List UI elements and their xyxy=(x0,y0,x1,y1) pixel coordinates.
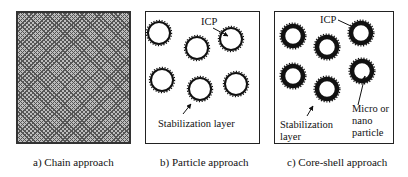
stabilization-layer-ring xyxy=(218,26,243,51)
stabilization-layer-ring xyxy=(146,20,171,45)
stabilization-arrow-b xyxy=(183,104,191,114)
icp-particles-thin-rings xyxy=(146,20,248,101)
particle-ring xyxy=(151,69,173,91)
particle-ring xyxy=(225,73,247,95)
particle-ring xyxy=(148,22,170,44)
stabilization-layer-ring xyxy=(184,35,209,60)
core-label-line3: particle xyxy=(352,126,383,139)
particle-ring xyxy=(189,78,211,100)
particle-ring xyxy=(220,28,242,50)
particle-ring xyxy=(186,37,208,59)
particle-ring xyxy=(317,79,337,99)
stabilization-label-b: Stabilization layer xyxy=(158,117,235,130)
icp-line-c xyxy=(338,20,353,27)
particle-ring xyxy=(283,26,303,46)
stabilization-label-c-line2: layer xyxy=(280,130,301,143)
stabilization-layer-ring xyxy=(187,76,212,101)
particle-ring xyxy=(283,66,303,86)
icp-label-c: ICP xyxy=(320,13,336,26)
stabilization-layer-ring xyxy=(149,67,174,92)
stabilization-layer-ring xyxy=(223,71,248,96)
particle-ring xyxy=(352,61,372,81)
icp-label-b: ICP xyxy=(201,15,217,28)
particle-ring xyxy=(351,23,371,43)
particle-ring xyxy=(317,37,337,57)
stabilization-arrow-c xyxy=(307,106,313,116)
core-shell-particles-thick-rings xyxy=(280,20,375,102)
